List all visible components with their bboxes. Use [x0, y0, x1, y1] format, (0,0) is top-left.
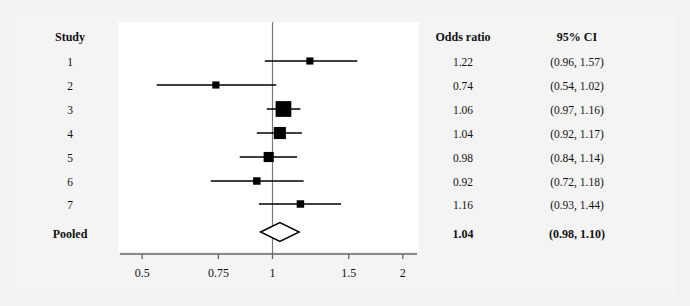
study-ci: (0.96, 1.57)	[512, 56, 642, 68]
x-axis-tick-label: 1	[248, 266, 298, 281]
study-estimate: 1.04	[420, 128, 506, 140]
study-label: 4	[30, 128, 110, 140]
study-label: 2	[30, 80, 110, 92]
study-ci: (0.92, 1.17)	[512, 128, 642, 140]
study-ci: (0.97, 1.16)	[512, 104, 642, 116]
plot-panel	[118, 22, 419, 252]
study-ci: (0.84, 1.14)	[512, 152, 642, 164]
pooled-ci: (0.98, 1.10)	[512, 227, 642, 242]
column-header-odds-ratio: Odds ratio	[420, 30, 506, 45]
x-axis-tick-label: 0.5	[117, 266, 167, 281]
study-estimate: 1.06	[420, 104, 506, 116]
x-axis-tick-label: 2	[378, 266, 428, 281]
study-label: 1	[30, 56, 110, 68]
study-label: 5	[30, 152, 110, 164]
study-estimate: 1.16	[420, 199, 506, 211]
study-ci: (0.72, 1.18)	[512, 176, 642, 188]
study-estimate: 0.74	[420, 80, 506, 92]
study-estimate: 0.98	[420, 152, 506, 164]
study-estimate: 1.22	[420, 56, 506, 68]
pooled-label: Pooled	[30, 227, 110, 242]
forest-plot-figure: Study Odds ratio 95% CI 1 1.22 (0.96, 1.…	[0, 0, 690, 306]
study-label: 3	[30, 104, 110, 116]
column-header-ci: 95% CI	[512, 30, 642, 45]
study-label: 7	[30, 199, 110, 211]
study-estimate: 0.92	[420, 176, 506, 188]
study-ci: (0.93, 1.44)	[512, 199, 642, 211]
pooled-estimate: 1.04	[420, 227, 506, 242]
x-axis-tick-label: 1.5	[324, 266, 374, 281]
x-axis-tick-label: 0.75	[193, 266, 243, 281]
study-label: 6	[30, 176, 110, 188]
study-ci: (0.54, 1.02)	[512, 80, 642, 92]
column-header-study: Study	[30, 30, 110, 45]
